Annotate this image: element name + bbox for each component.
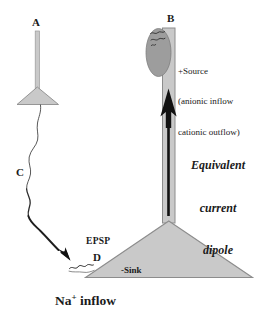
axon-path-upper: [27, 105, 41, 189]
label-na-inflow: Na+ inflow: [55, 293, 116, 308]
presynaptic-neuron-a: [17, 31, 59, 105]
terminal-squiggle-lower: [69, 270, 94, 272]
label-source-title: +Source: [178, 66, 240, 76]
na-inflow-word: inflow: [77, 293, 116, 308]
bouton-oval: [146, 29, 171, 77]
triangular-soma-icon: [17, 87, 59, 105]
synaptic-bouton-icon: [146, 29, 171, 77]
terminal-squiggle: [70, 265, 94, 269]
dipole-line-2: current: [180, 201, 256, 215]
label-equivalent-current-dipole: Equivalent current dipole: [180, 130, 256, 286]
label-axon-c: C: [16, 166, 24, 178]
bouton-squiggle-3: [151, 45, 156, 46]
synaptic-terminal-d: [69, 265, 94, 273]
label-epsp: EPSP: [86, 236, 110, 247]
label-source-line1: (anionic inflow: [178, 96, 240, 106]
axon-path-lower: [28, 216, 58, 250]
label-neuron-a: A: [32, 16, 40, 28]
synapse-arrowhead-fill: [60, 247, 71, 261]
label-synapse-d: D: [93, 251, 101, 263]
neuron-a-dendrite-shaft: [35, 31, 39, 91]
label-sink: -Sink: [121, 265, 142, 275]
axon-path-mid: [27, 189, 31, 216]
na-symbol: Na: [55, 293, 72, 308]
dipole-line-3: dipole: [180, 243, 256, 257]
label-dendrite-b: B: [167, 12, 175, 24]
axon-c: [27, 105, 71, 261]
neuron-dipole-figure: A B C D EPSP -Sink +Source (anionic infl…: [0, 0, 263, 317]
dipole-line-1: Equivalent: [180, 158, 256, 172]
